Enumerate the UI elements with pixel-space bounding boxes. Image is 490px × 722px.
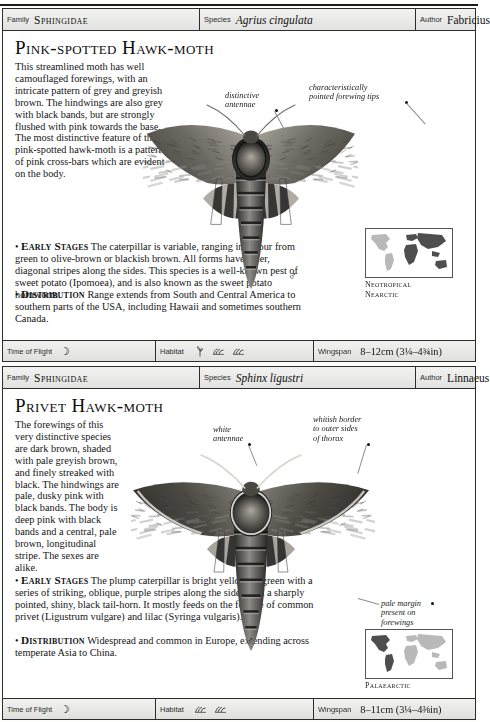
entry-body: Pink-spotted Hawk-moth This streamlined … xyxy=(3,31,475,340)
header-field-species: Species Sphinx ligustri xyxy=(199,367,416,388)
family-label: Family xyxy=(3,15,34,24)
callout-dot xyxy=(431,602,434,605)
callout-line: whitish border to outer sides of thorax xyxy=(313,415,361,443)
footer-field-wingspan: Wingspan 8–12cm (3¼–4¾in) xyxy=(313,341,474,361)
habitat-label: Habitat xyxy=(156,347,189,356)
hill-icon xyxy=(195,706,206,713)
entry-footer: Time of Flight ☽ Habitat Wingspan xyxy=(3,698,475,719)
footer-field-habitat: Habitat xyxy=(155,341,314,361)
page-top-rule xyxy=(0,4,478,6)
entry-header: Family Sphingidae Species Sphinx ligustr… xyxy=(3,367,475,389)
distribution-label: Distribution xyxy=(21,288,85,300)
entry-body: Privet Hawk-moth The forewings of this v… xyxy=(3,389,475,698)
sex-symbol-male: ♂ xyxy=(288,269,297,284)
species-entry-pink-spotted-hawk-moth: Family Sphingidae Species Agrius cingula… xyxy=(2,8,476,362)
distribution-label: Distribution xyxy=(21,634,85,646)
habitat-icon-group xyxy=(195,706,226,713)
species-entry-privet-hawk-moth: Family Sphingidae Species Sphinx ligustr… xyxy=(2,366,476,720)
species-label: Species xyxy=(200,15,236,24)
map-caption: Neotropical Nearctic xyxy=(365,280,411,300)
callout-whitish-border-thorax: whitish border to outer sides of thorax xyxy=(313,415,361,443)
hill-icon xyxy=(233,348,244,355)
callout-leader-line xyxy=(406,103,425,124)
wingspan-label: Wingspan xyxy=(314,705,356,714)
species-value: Sphinx ligustri xyxy=(236,372,303,384)
habitat-icon-group xyxy=(195,346,244,357)
page-title: Privet Hawk-moth xyxy=(15,395,163,417)
header-field-family: Family Sphingidae xyxy=(3,367,199,388)
callout-white-antennae: white antennae xyxy=(213,425,243,444)
footer-field-time-of-flight: Time of Flight ☽ xyxy=(3,341,155,361)
hill-icon xyxy=(213,348,224,355)
callout-distinctive-antennae: distinctive antennae xyxy=(225,91,259,110)
footer-field-wingspan: Wingspan 8–11cm (3¼–4⅜in) xyxy=(313,699,474,719)
moon-icon: ☽ xyxy=(60,345,70,358)
footer-field-habitat: Habitat xyxy=(155,699,314,719)
callout-pointed-forewing-tips: characteristically pointed forewing tips xyxy=(309,83,379,102)
moon-icon: ☽ xyxy=(60,703,70,716)
callout-line: distinctive antennae xyxy=(225,91,259,109)
family-value: Sphingidae xyxy=(34,14,88,26)
header-field-author: Author Fabricius xyxy=(415,9,474,30)
footer-field-time-of-flight: Time of Flight ☽ xyxy=(3,699,155,719)
description-paragraph: The forewings of this very distinctive s… xyxy=(15,419,123,574)
author-value: Linnaeus xyxy=(447,372,489,384)
distribution-map xyxy=(365,629,453,679)
wingspan-value: 8–11cm (3¼–4⅜in) xyxy=(360,704,441,715)
species-value: Agrius cingulata xyxy=(236,14,313,26)
map-caption: Palaearctic xyxy=(365,681,411,691)
header-field-author: Author Linnaeus xyxy=(415,367,474,388)
page-title: Pink-spotted Hawk-moth xyxy=(15,37,214,59)
entry-footer: Time of Flight ☽ Habitat xyxy=(3,340,475,361)
author-value: Fabricius xyxy=(447,14,490,26)
distribution-map xyxy=(365,228,453,278)
sex-symbol-male: ♂ xyxy=(245,634,254,649)
entry-header: Family Sphingidae Species Agrius cingula… xyxy=(3,9,475,31)
early-stages-label: Early Stages xyxy=(21,240,88,252)
callout-line: pale margin present on forewings xyxy=(381,599,421,627)
wingspan-label: Wingspan xyxy=(314,347,356,356)
header-field-family: Family Sphingidae xyxy=(3,9,199,30)
family-value: Sphingidae xyxy=(34,372,88,384)
author-label: Author xyxy=(416,15,447,24)
hill-icon xyxy=(215,706,226,713)
plant-icon xyxy=(195,346,204,357)
author-label: Author xyxy=(416,373,447,382)
callout-line: white antennae xyxy=(213,425,243,443)
callout-dot xyxy=(367,443,370,446)
time-of-flight-label: Time of Flight xyxy=(3,705,57,714)
wingspan-value: 8–12cm (3¼–4¾in) xyxy=(360,346,442,357)
header-field-species: Species Agrius cingulata xyxy=(199,9,416,30)
time-of-flight-label: Time of Flight xyxy=(3,347,57,356)
family-label: Family xyxy=(3,373,34,382)
species-label: Species xyxy=(200,373,236,382)
early-stages-label: Early Stages xyxy=(21,574,88,586)
callout-pale-margin-forewings: pale margin present on forewings xyxy=(381,599,421,627)
callout-line: characteristically pointed forewing tips xyxy=(309,83,379,101)
habitat-label: Habitat xyxy=(156,705,189,714)
